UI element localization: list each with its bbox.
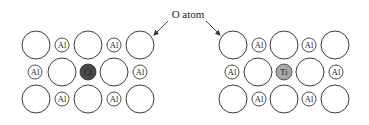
al-label: Al xyxy=(255,94,264,104)
cr-label: Cr xyxy=(84,67,93,77)
al-label: Al xyxy=(332,67,341,77)
o-atom xyxy=(74,31,102,59)
arrow-to-right-o-atom xyxy=(206,21,220,35)
crystal-lattice-diagram: O atom Al Al Al Cr Al Al Al Al xyxy=(0,0,369,125)
al-label: Al xyxy=(110,94,119,104)
o-atom xyxy=(22,31,50,59)
ti-label: Ti xyxy=(280,67,288,77)
o-atom xyxy=(100,58,128,86)
arrow-to-left-o-atom xyxy=(154,21,168,35)
al-label: Al xyxy=(136,67,145,77)
o-atom xyxy=(48,58,76,86)
o-atom xyxy=(296,58,324,86)
o-atom xyxy=(321,85,349,113)
o-atom xyxy=(22,85,50,113)
al-label: Al xyxy=(58,40,67,50)
panel-cr: Al Al Al Cr Al Al Al xyxy=(22,31,154,113)
o-atom xyxy=(244,58,272,86)
al-label: Al xyxy=(58,94,67,104)
o-atom xyxy=(270,31,298,59)
o-atom xyxy=(126,31,154,59)
o-atom xyxy=(219,31,247,59)
al-label: Al xyxy=(228,67,237,77)
o-atom xyxy=(74,85,102,113)
al-label: Al xyxy=(31,67,40,77)
o-atom xyxy=(126,85,154,113)
o-atom-label: O atom xyxy=(172,8,205,20)
o-atom xyxy=(270,85,298,113)
panel-ti: Al Al Al Ti Al Al Al xyxy=(219,31,349,113)
al-label: Al xyxy=(110,40,119,50)
al-label: Al xyxy=(255,40,264,50)
o-atom xyxy=(321,31,349,59)
al-label: Al xyxy=(305,94,314,104)
o-atom xyxy=(219,85,247,113)
al-label: Al xyxy=(305,40,314,50)
